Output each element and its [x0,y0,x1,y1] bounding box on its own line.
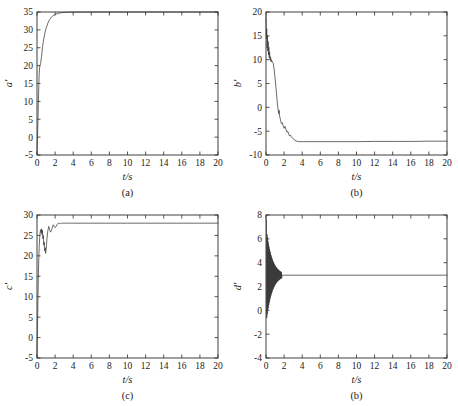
x-tick-label: 0 [264,158,269,168]
plot-frame [266,215,447,358]
x-tick-label: 12 [141,361,151,371]
x-tick-label: 2 [53,158,58,168]
x-tick-label: 10 [352,158,362,168]
x-tick-label: 8 [336,158,341,168]
x-tick-label: 10 [123,361,133,371]
y-tick-label: 35 [24,7,34,17]
y-tick-label: 0 [257,306,262,316]
y-tick-label: 8 [257,210,262,220]
y-tick-label: -5 [254,127,262,137]
data-curve-b [266,17,447,142]
panel-b-plot: 02468101214161820-10-505101520b't/s(b) [229,0,458,203]
y-tick-label: 15 [24,272,34,282]
panel-d-plot: 02468101214161820-4-202468d't/s(b) [229,203,458,406]
y-tick-label: 0 [28,333,33,343]
panel-b: 02468101214161820-10-505101520b't/s(b) [229,0,458,203]
y-tick-label: 20 [24,251,34,261]
panel-caption: (b) [350,390,363,402]
x-tick-label: 16 [177,361,187,371]
x-tick-label: 4 [300,361,305,371]
x-axis-label: t/s [123,171,133,182]
data-curve-d [266,220,447,318]
y-tick-label: 4 [257,258,262,268]
data-curve-c [37,223,218,357]
x-tick-label: 18 [424,158,434,168]
y-axis-label: d' [232,282,243,290]
x-tick-label: 2 [53,361,58,371]
plot-frame [37,12,218,155]
x-tick-label: 6 [89,158,94,168]
panel-a: 02468101214161820-505101520253035a't/s(a… [0,0,229,203]
y-tick-label: 25 [24,231,34,241]
x-axis-label: t/s [352,374,362,385]
y-tick-label: 6 [257,234,262,244]
y-tick-label: 5 [28,115,33,125]
x-tick-label: 8 [107,158,112,168]
y-tick-label: 20 [253,7,263,17]
x-tick-label: 6 [318,158,323,168]
x-tick-label: 12 [141,158,151,168]
x-tick-label: 16 [406,361,416,371]
y-axis-label: b' [232,79,243,87]
x-tick-label: 18 [195,361,205,371]
panel-d: 02468101214161820-4-202468d't/s(b) [229,203,458,406]
y-tick-label: 25 [24,43,34,53]
x-tick-label: 20 [442,158,452,168]
y-tick-label: -2 [254,330,262,340]
x-tick-label: 20 [213,361,223,371]
x-axis-label: t/s [352,171,362,182]
x-tick-label: 4 [71,158,76,168]
x-tick-label: 16 [406,158,416,168]
x-tick-label: 0 [264,361,269,371]
x-tick-label: 8 [107,361,112,371]
panel-caption: (c) [122,390,134,402]
x-tick-label: 18 [195,158,205,168]
x-tick-label: 2 [282,158,287,168]
x-tick-label: 2 [282,361,287,371]
y-tick-label: 10 [253,55,263,65]
plot-frame [37,215,218,358]
x-tick-label: 16 [177,158,187,168]
x-tick-label: 14 [388,158,398,168]
y-tick-label: 10 [24,292,34,302]
data-curve-a [37,12,218,154]
x-tick-label: 0 [35,158,40,168]
x-tick-label: 14 [159,361,169,371]
y-axis-label: c' [3,282,14,290]
x-tick-label: 14 [159,158,169,168]
panel-c: 02468101214161820-5051015202530c't/s(c) [0,203,229,406]
x-tick-label: 4 [300,158,305,168]
panel-a-plot: 02468101214161820-505101520253035a't/s(a… [0,0,229,203]
panel-caption: (a) [122,187,134,199]
x-tick-label: 10 [352,361,362,371]
y-tick-label: 10 [24,97,34,107]
panel-caption: (b) [350,187,363,199]
y-tick-label: 5 [28,313,33,323]
y-tick-label: 2 [257,282,262,292]
y-tick-label: 20 [24,61,34,71]
x-tick-label: 20 [442,361,452,371]
x-tick-label: 18 [424,361,434,371]
y-tick-label: -10 [249,150,262,160]
y-tick-label: 15 [24,79,34,89]
panel-c-plot: 02468101214161820-5051015202530c't/s(c) [0,203,229,406]
y-tick-label: -5 [25,150,33,160]
x-tick-label: 6 [318,361,323,371]
y-tick-label: 0 [28,133,33,143]
plot-frame [266,12,447,155]
y-tick-label: 0 [257,103,262,113]
x-tick-label: 14 [388,361,398,371]
y-tick-label: 5 [257,79,262,89]
x-tick-label: 10 [123,158,133,168]
y-tick-label: -5 [25,353,33,363]
x-tick-label: 0 [35,361,40,371]
x-tick-label: 12 [370,158,380,168]
y-tick-label: 30 [24,25,34,35]
y-tick-label: 15 [253,31,263,41]
y-tick-label: 30 [24,210,34,220]
x-axis-label: t/s [123,374,133,385]
x-tick-label: 20 [213,158,223,168]
x-tick-label: 12 [370,361,380,371]
x-tick-label: 4 [71,361,76,371]
x-tick-label: 6 [89,361,94,371]
